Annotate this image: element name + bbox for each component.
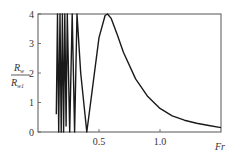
y-tick-label: 3 <box>29 38 34 49</box>
ylabel-numerator: Rw <box>13 62 24 74</box>
x-axis-label: Fr <box>214 141 225 152</box>
y-tick-label: 2 <box>29 68 34 79</box>
y-tick-label: 4 <box>29 9 34 20</box>
x-tick-label: 1.0 <box>154 136 167 147</box>
ylabel-denominator: Rw1 <box>10 77 24 89</box>
y-tick-label: 1 <box>29 97 34 108</box>
x-tick-label: 0.5 <box>93 136 106 147</box>
y-tick-label: 0 <box>29 127 34 138</box>
chart: 01234 0.51.0 Rw Rw1 Fr <box>0 0 240 158</box>
y-axis-label: Rw Rw1 <box>10 62 30 89</box>
data-line <box>56 14 221 132</box>
y-axis-ticks: 01234 <box>29 9 41 138</box>
